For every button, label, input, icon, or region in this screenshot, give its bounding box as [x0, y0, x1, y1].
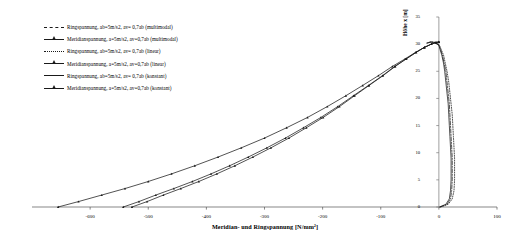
legend-item-label: Meridianspannung, a=5m/s2, av=0,7ab (lin… [67, 61, 166, 67]
x-tick-label: 100 [485, 214, 509, 219]
legend-triangle-marker-icon [52, 60, 56, 64]
legend-item: Meridianspannung, a=5m/s2, av=0,7ab (mul… [44, 33, 274, 45]
y-tick-label: 10 [408, 150, 420, 155]
x-tick-label: 0 [427, 214, 451, 219]
legend-key-icon [44, 34, 64, 44]
x-tick-label: -200 [311, 214, 335, 219]
legend-key-icon [44, 83, 64, 93]
y-tick-label: 15 [408, 123, 420, 128]
y-tick-label: 25 [408, 68, 420, 73]
legend-item-label: Ringspannung, ab=5m/s2, av= 0,7ab (konst… [67, 73, 166, 79]
series-line [427, 42, 452, 207]
y-tick-label: 35 [408, 14, 420, 19]
legend-item: Ringspannung, ab=5m/s2, av= 0,7ab (konst… [44, 70, 274, 82]
legend-item-label: Meridianspannung, a=5m/s2, av=0,7ab (mul… [67, 36, 178, 42]
legend-item-label: Ringspannung, ab=5m/s2, av= 0,7ab (linea… [67, 48, 161, 54]
legend-item: Ringspannung, ab=5m/s2, av= 0,7ab (multi… [44, 21, 274, 33]
y-tick-label: 0 [408, 204, 420, 209]
y-tick-label: 5 [408, 177, 420, 182]
x-axis-title: Meridian- und Ringspannung [N/mm²] [150, 223, 380, 230]
legend-key-icon [44, 59, 64, 69]
x-tick-label: -600 [78, 214, 102, 219]
y-tick-label: 30 [408, 41, 420, 46]
legend-item: Meridianspannung, a=5m/s2, av=0,7ab (kon… [44, 82, 274, 94]
legend-line-sample [44, 75, 64, 76]
x-tick-label: -500 [136, 214, 160, 219]
legend-item-label: Ringspannung, ab=5m/s2, av= 0,7ab (multi… [67, 24, 173, 30]
legend-key-icon [44, 22, 64, 32]
legend-line-sample [44, 51, 64, 52]
legend-triangle-marker-icon [52, 36, 56, 40]
legend-triangle-marker-icon [52, 85, 56, 89]
legend-item: Ringspannung, ab=5m/s2, av= 0,7ab (linea… [44, 45, 274, 57]
x-tick-label: -300 [253, 214, 277, 219]
chart-legend: Ringspannung, ab=5m/s2, av= 0,7ab (multi… [44, 21, 274, 94]
x-tick-label: -100 [369, 214, 393, 219]
legend-key-icon [44, 71, 64, 81]
legend-key-icon [44, 46, 64, 56]
x-tick-label: -400 [194, 214, 218, 219]
y-tick-label: 20 [408, 95, 420, 100]
legend-item: Meridianspannung, a=5m/s2, av=0,7ab (lin… [44, 58, 274, 70]
legend-line-sample [44, 27, 64, 28]
legend-item-label: Meridianspannung, a=5m/s2, av=0,7ab (kon… [67, 85, 171, 91]
